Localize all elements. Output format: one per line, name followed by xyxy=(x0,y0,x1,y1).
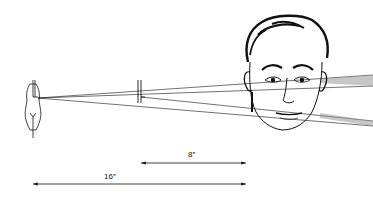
diagram-canvas: 8″ 16″ xyxy=(0,0,373,200)
ray-shading xyxy=(320,75,373,126)
dimension-8-label: 8″ xyxy=(188,150,195,159)
man-head-illustration xyxy=(244,16,327,130)
dimension-16-label: 16″ xyxy=(104,172,116,181)
card-icon xyxy=(138,80,145,103)
dimension-16-inch: 16″ xyxy=(33,172,246,184)
lamp-bulb-icon xyxy=(25,80,41,138)
dimension-8-inch: 8″ xyxy=(141,150,246,163)
